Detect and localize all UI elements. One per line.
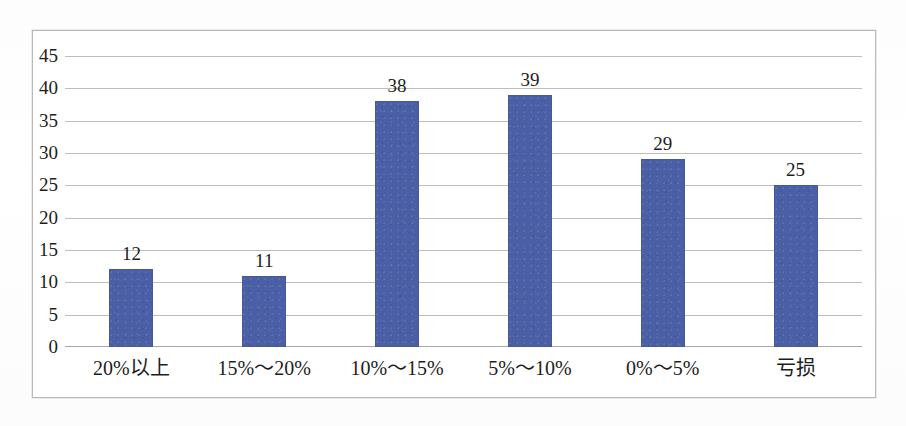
bar[interactable] [375,101,419,347]
bar-slot: 38 [331,56,464,347]
y-axis-tick-label: 25 [24,175,58,194]
bar[interactable] [774,185,818,347]
x-axis-tick-label: 0%～5% [626,355,699,381]
bar-value-label: 12 [122,244,141,263]
bar[interactable] [641,159,685,347]
bar-value-label: 29 [653,134,672,153]
y-axis-tick-label: 0 [24,337,58,356]
bar-value-label: 38 [388,76,407,95]
bar-value-label: 39 [520,70,539,89]
y-axis-tick-label: 45 [24,46,58,65]
y-axis-tick-label: 15 [24,240,58,259]
y-axis-tick-label: 35 [24,111,58,130]
bar-slot: 25 [729,56,862,347]
x-axis-tick-label: 亏损 [776,355,816,381]
y-axis-tick-label: 30 [24,143,58,162]
bar-value-label: 25 [786,160,805,179]
y-axis-tick-label: 10 [24,272,58,291]
y-axis-tick-label: 20 [24,208,58,227]
bar-slot: 39 [464,56,597,347]
bar[interactable] [508,95,552,347]
bar-series: 12 11 38 39 29 25 [65,56,862,347]
x-axis-tick-label: 15%～20% [218,355,311,381]
x-axis-tick-label: 10%～15% [350,355,443,381]
bar[interactable] [242,276,286,347]
x-axis-tick-label: 20%以上 [93,355,170,381]
x-axis: 20%以上 15%～20% 10%～15% 5%～10% 0%～5% 亏损 [65,355,862,387]
y-axis-tick-label: 5 [24,305,58,324]
bar-slot: 29 [596,56,729,347]
x-axis-tick-label: 5%～10% [488,355,571,381]
bar[interactable] [109,269,153,347]
bar-value-label: 11 [255,251,273,270]
bar-slot: 11 [198,56,331,347]
y-axis: 45 40 35 30 25 20 15 10 5 0 [14,56,58,347]
bar-slot: 12 [65,56,198,347]
page-background: 45 40 35 30 25 20 15 10 5 0 12 11 [0,0,906,426]
y-axis-tick-label: 40 [24,78,58,97]
